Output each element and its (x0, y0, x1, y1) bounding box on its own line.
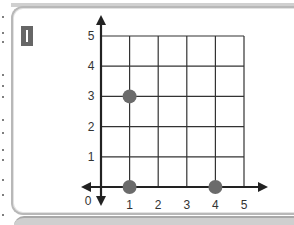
y-tick-label: 3 (88, 89, 95, 103)
y-axis-down-arrow-icon (96, 196, 106, 206)
y-tick-label: 2 (88, 120, 95, 134)
x-tick-label: 2 (155, 198, 162, 212)
origin-label: 0 (85, 194, 92, 208)
next-card-edge (14, 216, 294, 225)
grid-lines (101, 36, 244, 187)
y-tick-label: 4 (88, 59, 95, 73)
data-point (123, 180, 137, 194)
y-tick-label: 1 (88, 150, 95, 164)
coordinate-grid-chart: 12345123450 (0, 0, 294, 225)
data-point (208, 180, 222, 194)
x-tick-label: 4 (212, 198, 219, 212)
data-point (123, 89, 137, 103)
x-tick-label: 1 (126, 198, 133, 212)
axes (81, 15, 268, 206)
y-axis-up-arrow-icon (96, 15, 106, 25)
y-tick-label: 5 (88, 29, 95, 43)
x-axis-left-arrow-icon (81, 182, 91, 192)
x-axis-right-arrow-icon (258, 182, 268, 192)
tick-labels: 12345123450 (85, 29, 248, 212)
data-points (123, 89, 223, 194)
x-tick-label: 3 (183, 198, 190, 212)
x-tick-label: 5 (241, 198, 248, 212)
